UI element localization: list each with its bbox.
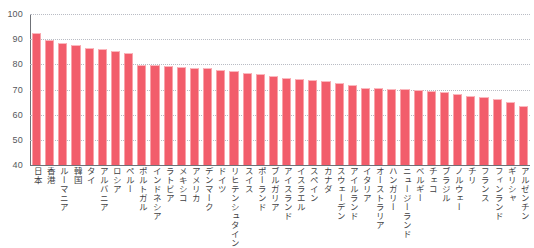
bar-slot [203,14,212,165]
x-label-12: アメリカ [189,167,199,203]
x-label-24: アイルランド [347,167,357,221]
bar-slot [45,14,54,165]
bar-slot [427,14,436,165]
bar-slot [32,14,41,165]
bar-slot [190,14,199,165]
bar[interactable] [243,73,252,165]
x-label-14: ドイツ [216,167,226,194]
bar-slot [387,14,396,165]
x-label-11: メキシコ [176,167,186,203]
bar[interactable] [321,81,330,165]
x-label-15: リヒテンシュタイン [229,167,239,248]
bar[interactable] [164,66,173,165]
x-label-9: インドネシア [150,167,160,221]
x-label-29: ベルギー [413,167,423,203]
bar[interactable] [335,83,344,165]
bar-slot [400,14,409,165]
bar[interactable] [137,65,146,165]
bar[interactable] [282,78,291,165]
bar[interactable] [374,88,383,165]
x-label-0: 日本 [32,167,42,185]
bar[interactable] [400,89,409,165]
y-tick-label-70: 70 [13,85,23,94]
bar-slot [466,14,475,165]
bar[interactable] [519,106,528,165]
bar-slot [256,14,265,165]
bar[interactable] [308,80,317,165]
x-label-32: ノルウェー [453,167,463,212]
x-label-36: ギリシャ [505,167,515,203]
bar-slot [71,14,80,165]
bar[interactable] [479,97,488,165]
bar[interactable] [71,45,80,165]
gridline-40 [30,165,530,166]
x-label-22: カナダ [321,167,331,194]
x-label-2: ルーマニア [58,167,68,212]
bar[interactable] [58,43,67,165]
x-label-13: デンマーク [203,167,213,212]
bar[interactable] [269,76,278,165]
x-label-18: ブルガリア [268,167,278,212]
plot-area [30,14,530,165]
x-label-8: ポルトガル [137,167,147,212]
bar-slot [493,14,502,165]
bar[interactable] [190,68,199,165]
bar-slot [361,14,370,165]
x-label-23: スウェーデン [334,167,344,221]
bar-slot [229,14,238,165]
x-label-21: スペイン [308,167,318,203]
bar-slot [150,14,159,165]
bar[interactable] [203,68,212,165]
x-label-20: イスラエル [295,167,305,212]
bar[interactable] [98,49,107,165]
bar[interactable] [256,74,265,165]
bar[interactable] [414,90,423,166]
bar-slot [164,14,173,165]
y-tick-label-80: 80 [13,60,23,69]
bar-slot [58,14,67,165]
bar[interactable] [32,33,41,165]
bar-series [30,14,530,165]
x-label-25: イタリア [361,167,371,203]
chart-title [0,0,534,5]
x-label-19: アイスランド [282,167,292,221]
bar[interactable] [440,92,449,165]
x-label-34: フランス [479,167,489,203]
bar-slot [85,14,94,165]
bar[interactable] [506,102,515,165]
x-label-16: スイス [242,167,252,194]
x-label-6: ロシア [111,167,121,194]
bar[interactable] [111,51,120,165]
bar-slot [506,14,515,165]
y-tick-label-50: 50 [13,135,23,144]
bar[interactable] [387,89,396,166]
x-label-27: ハンガリー [387,167,397,212]
bar-slot [137,14,146,165]
bar[interactable] [361,88,370,166]
bar[interactable] [216,70,225,165]
x-axis-category-labels: 日本香港ルーマニア韓国タイアルバニアロシアペルーポルトガルインドネシアラトビアメ… [30,167,530,241]
x-label-35: フィンランド [492,167,502,221]
bar[interactable] [453,94,462,165]
bar-slot [98,14,107,165]
bar[interactable] [85,48,94,165]
bar[interactable] [466,96,475,165]
bar[interactable] [150,65,159,165]
bar-slot [414,14,423,165]
bar[interactable] [348,85,357,165]
bar[interactable] [493,99,502,165]
y-tick-label-60: 60 [13,110,23,119]
bar-slot [374,14,383,165]
bar[interactable] [124,53,133,165]
bar[interactable] [427,91,436,165]
x-label-7: ペルー [124,167,134,194]
bar[interactable] [177,67,186,165]
y-tick-label-90: 90 [13,35,23,44]
bar-slot [479,14,488,165]
x-label-30: チェコ [426,167,436,194]
bar[interactable] [295,79,304,165]
bar[interactable] [45,40,54,165]
bar[interactable] [229,71,238,165]
x-label-17: ポーランド [255,167,265,212]
